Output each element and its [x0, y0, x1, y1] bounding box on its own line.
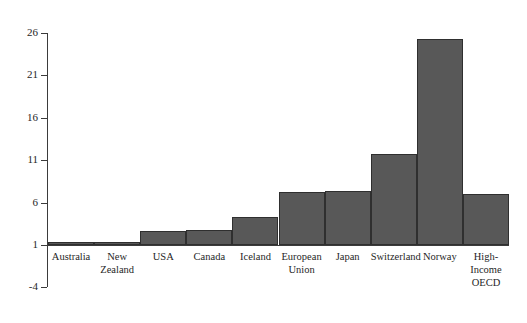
bar-switzerland	[371, 154, 417, 245]
x-axis-baseline	[47, 245, 509, 246]
x-category-label: Norway	[417, 250, 463, 263]
y-tick-label: 26	[0, 26, 38, 38]
bar-canada	[186, 230, 232, 245]
bar-series	[48, 33, 509, 245]
x-category-label: Australia	[48, 250, 94, 263]
x-category-label: New Zealand	[94, 250, 140, 276]
y-tick-mark	[41, 75, 47, 76]
y-tick-mark	[41, 203, 47, 204]
y-tick-label: 16	[0, 111, 38, 123]
y-tick-label: 21	[0, 68, 38, 80]
x-category-label: European Union	[279, 250, 325, 276]
y-tick-mark	[41, 33, 47, 34]
x-category-label: Japan	[325, 250, 371, 263]
bar-australia	[48, 242, 94, 245]
x-category-label: Switzerland	[371, 250, 417, 263]
y-tick-label: 6	[0, 196, 38, 208]
y-tick-label: 1	[0, 238, 38, 250]
bar-new-zealand	[94, 242, 140, 245]
y-tick-mark	[41, 287, 47, 288]
bar-japan	[325, 191, 371, 245]
x-category-label: High- Income OECD	[463, 250, 509, 289]
y-tick-mark	[41, 160, 47, 161]
y-tick-label: 11	[0, 153, 38, 165]
bar-norway	[417, 39, 463, 245]
x-category-label: USA	[140, 250, 186, 263]
bar-chart: 2621161161-4 AustraliaNew ZealandUSACana…	[0, 0, 527, 323]
bar-iceland	[232, 217, 278, 245]
bar-high--income-oecd	[463, 194, 509, 245]
y-tick-mark	[41, 245, 47, 246]
y-tick-mark	[41, 118, 47, 119]
bar-european-union	[279, 192, 325, 245]
y-tick-label: -4	[0, 280, 38, 292]
bar-usa	[140, 231, 186, 245]
x-category-label: Canada	[186, 250, 232, 263]
x-axis-category-labels: AustraliaNew ZealandUSACanadaIcelandEuro…	[48, 250, 509, 320]
x-category-label: Iceland	[232, 250, 278, 263]
